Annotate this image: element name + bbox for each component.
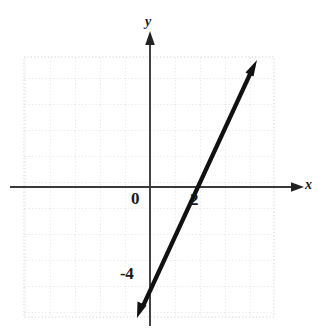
y-axis-label: y bbox=[145, 15, 151, 29]
coordinate-graph-figure: 0 2 -4 x y bbox=[0, 0, 323, 330]
y-intercept-label: -4 bbox=[120, 265, 133, 282]
graph-canvas bbox=[0, 0, 323, 330]
x-intercept-label: 2 bbox=[190, 191, 199, 208]
x-axis-label: x bbox=[305, 178, 312, 192]
origin-label: 0 bbox=[131, 190, 140, 207]
